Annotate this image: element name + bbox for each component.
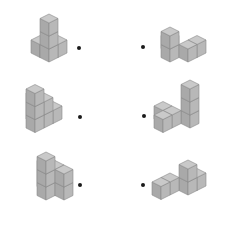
match-dot-fig-right-3[interactable] xyxy=(141,183,145,187)
cube-figure-fig-left-3 xyxy=(37,152,73,200)
match-dot-fig-left-2[interactable] xyxy=(78,115,82,119)
cube-figure-fig-right-1 xyxy=(161,27,206,62)
cube-figure-fig-right-3 xyxy=(152,160,206,200)
match-dot-fig-right-2[interactable] xyxy=(142,114,146,118)
match-dot-fig-left-1[interactable] xyxy=(77,46,81,50)
match-dot-fig-left-3[interactable] xyxy=(78,183,82,187)
figures-svg xyxy=(0,0,229,228)
cube-figure-fig-left-2 xyxy=(26,85,62,133)
cube-figure-fig-left-1 xyxy=(31,14,67,62)
matching-exercise-canvas xyxy=(0,0,229,228)
match-dot-fig-right-1[interactable] xyxy=(141,45,145,49)
cube-figure-fig-right-2 xyxy=(154,80,199,133)
